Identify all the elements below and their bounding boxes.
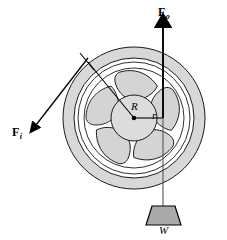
label-weight: W — [159, 225, 168, 236]
label-force-in-subscript: i — [20, 132, 22, 141]
label-force-out-subscript: o — [166, 12, 170, 21]
wheel-axle-figure: Fo Fi R r W — [0, 0, 227, 240]
label-force-out: Fo — [158, 6, 169, 18]
figure-canvas — [0, 0, 227, 240]
label-radius-small: r — [152, 110, 156, 121]
weight-block — [146, 206, 181, 225]
label-radius-large: R — [131, 101, 138, 112]
label-force-in: Fi — [12, 126, 22, 138]
label-force-out-symbol: F — [158, 5, 165, 19]
label-force-in-symbol: F — [12, 125, 19, 139]
